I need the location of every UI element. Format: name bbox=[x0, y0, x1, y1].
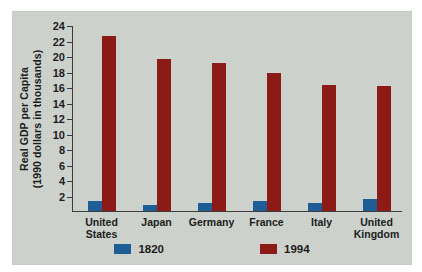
legend-swatch-1994 bbox=[260, 244, 277, 254]
y-axis-title-line-2: (1990 dollars in thousands) bbox=[32, 50, 44, 189]
y-tick-label: 12 bbox=[53, 113, 65, 125]
bar-1820 bbox=[253, 201, 267, 210]
bar-1820 bbox=[88, 201, 102, 210]
y-tick-label: 24 bbox=[53, 20, 65, 32]
y-axis-line bbox=[72, 26, 73, 212]
chart-legend: 1820 1994 bbox=[12, 243, 412, 255]
legend-label-1820: 1820 bbox=[138, 243, 164, 255]
y-tick-mark bbox=[67, 26, 72, 27]
bar-group bbox=[307, 85, 337, 211]
y-tick-mark bbox=[67, 104, 72, 105]
bar-1820 bbox=[363, 199, 377, 211]
bar-group bbox=[252, 73, 282, 211]
bar-1994 bbox=[102, 36, 116, 210]
bar-1994 bbox=[267, 73, 281, 211]
y-tick-mark bbox=[67, 135, 72, 136]
plot-area: 24681012141618202224 United StatesJapanG… bbox=[72, 26, 402, 212]
y-tick-label: 16 bbox=[53, 82, 65, 94]
x-axis-line bbox=[72, 211, 402, 212]
category-label: United Kingdom bbox=[343, 216, 411, 240]
bar-group bbox=[362, 86, 392, 211]
bar-group bbox=[197, 63, 227, 210]
y-tick-label: 14 bbox=[53, 98, 65, 110]
bar-1994 bbox=[212, 63, 226, 210]
legend-swatch-1820 bbox=[114, 244, 131, 254]
y-tick-label: 10 bbox=[53, 129, 65, 141]
y-tick-mark bbox=[67, 197, 72, 198]
y-tick-mark bbox=[67, 181, 72, 182]
legend-item-1994: 1994 bbox=[260, 243, 310, 255]
y-tick-label: 22 bbox=[53, 36, 65, 48]
y-tick-mark bbox=[67, 57, 72, 58]
y-tick-mark bbox=[67, 166, 72, 167]
y-tick-label: 4 bbox=[59, 175, 65, 187]
y-tick-label: 6 bbox=[59, 160, 65, 172]
bar-1994 bbox=[322, 85, 336, 211]
bar-group bbox=[142, 59, 172, 210]
y-axis-title: Real GDP per Capita (1990 dollars in tho… bbox=[14, 26, 48, 212]
bar-1994 bbox=[157, 59, 171, 210]
y-tick-mark bbox=[67, 150, 72, 151]
y-tick-label: 8 bbox=[59, 144, 65, 156]
bar-1994 bbox=[377, 86, 391, 211]
y-axis-title-line-1: Real GDP per Capita bbox=[19, 67, 31, 171]
y-tick-label: 20 bbox=[53, 51, 65, 63]
chart-figure: Real GDP per Capita (1990 dollars in tho… bbox=[0, 0, 422, 272]
y-tick-mark bbox=[67, 73, 72, 74]
legend-item-1820: 1820 bbox=[114, 243, 164, 255]
y-tick-mark bbox=[67, 119, 72, 120]
bar-1820 bbox=[198, 203, 212, 211]
bar-group bbox=[87, 36, 117, 210]
y-tick-mark bbox=[67, 42, 72, 43]
bar-1820 bbox=[143, 205, 157, 210]
y-tick-label: 2 bbox=[59, 191, 65, 203]
y-tick-mark bbox=[67, 88, 72, 89]
y-tick-label: 18 bbox=[53, 67, 65, 79]
legend-label-1994: 1994 bbox=[284, 243, 310, 255]
bar-1820 bbox=[308, 203, 322, 211]
